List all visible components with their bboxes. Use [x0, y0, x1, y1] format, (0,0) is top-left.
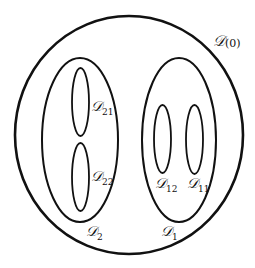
label-d21: 𝒟21: [91, 98, 113, 117]
region-d22-outline: [72, 143, 89, 211]
region-d21-outline: [72, 68, 89, 136]
label-d11: 𝒟11: [187, 175, 209, 194]
label-d1: 𝒟1: [161, 223, 178, 242]
label-d22: 𝒟22: [91, 168, 113, 187]
nested-sets-diagram: 𝒟(0) 𝒟21 𝒟22 𝒟2 𝒟12 𝒟11 𝒟1: [0, 0, 255, 268]
diagram-svg: 𝒟(0) 𝒟21 𝒟22 𝒟2 𝒟12 𝒟11 𝒟1: [0, 0, 255, 268]
label-d2: 𝒟2: [86, 223, 103, 242]
region-d0-outline: [15, 16, 243, 254]
region-d2-outline: [42, 58, 118, 222]
label-d12: 𝒟12: [155, 175, 177, 194]
region-d11-outline: [186, 105, 203, 174]
region-d1-outline: [142, 58, 216, 222]
label-d0: 𝒟(0): [213, 32, 241, 50]
region-d12-outline: [154, 105, 171, 173]
